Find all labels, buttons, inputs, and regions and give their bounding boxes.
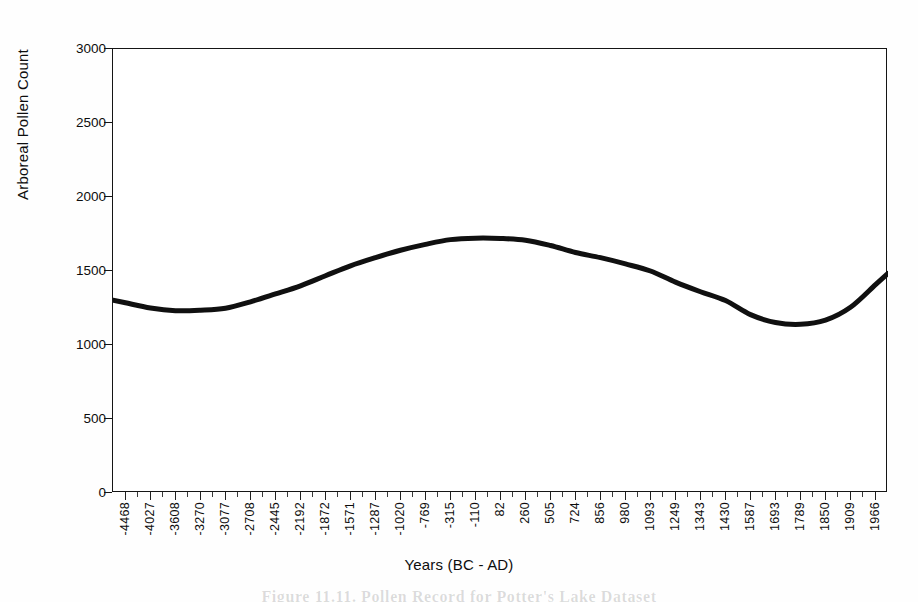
x-tick-mark-minor	[162, 492, 163, 497]
x-tick-label: 1249	[668, 502, 682, 531]
x-tick-mark	[675, 492, 676, 500]
x-tick-mark	[250, 492, 251, 500]
x-tick-mark-minor	[187, 492, 188, 497]
x-tick-label: 724	[568, 502, 582, 524]
pollen-series-line	[113, 49, 888, 493]
x-tick-mark-minor	[337, 492, 338, 497]
x-tick-mark-minor	[562, 492, 563, 497]
x-tick-label: 1789	[793, 502, 807, 531]
figure-caption-remnant: Figure 11.11. Pollen Record for Potter's…	[0, 588, 918, 602]
x-tick-mark-minor	[787, 492, 788, 497]
y-axis-tick-labels: 050010001500200025003000	[56, 40, 106, 500]
y-tick-mark	[104, 48, 112, 49]
x-tick-label: -1287	[368, 502, 382, 535]
x-tick-mark-minor	[287, 492, 288, 497]
x-tick-mark	[875, 492, 876, 500]
x-axis-title: Years (BC - AD)	[0, 556, 918, 573]
x-tick-mark	[225, 492, 226, 500]
x-tick-mark-minor	[362, 492, 363, 497]
y-tick-mark	[104, 492, 112, 493]
x-tick-label: -315	[443, 502, 457, 528]
x-tick-mark-minor	[437, 492, 438, 497]
x-tick-label: 82	[493, 502, 507, 517]
x-tick-label: -4468	[118, 502, 132, 535]
x-tick-mark-minor	[587, 492, 588, 497]
x-tick-label: -769	[418, 502, 432, 528]
x-tick-label: -1571	[343, 502, 357, 535]
x-tick-mark-minor	[687, 492, 688, 497]
x-tick-mark-minor	[637, 492, 638, 497]
y-tick-label: 0	[56, 485, 106, 500]
x-tick-label: 1850	[818, 502, 832, 531]
x-tick-label: -3608	[168, 502, 182, 535]
x-tick-label: -2708	[243, 502, 257, 535]
x-tick-mark-minor	[487, 492, 488, 497]
x-tick-mark	[725, 492, 726, 500]
x-tick-mark	[525, 492, 526, 500]
x-tick-label: 260	[518, 502, 532, 524]
y-tick-label: 1500	[56, 263, 106, 278]
x-tick-label: 505	[543, 502, 557, 524]
y-tick-mark	[104, 196, 112, 197]
x-tick-label: -2192	[293, 502, 307, 535]
x-tick-mark	[750, 492, 751, 500]
x-tick-mark	[575, 492, 576, 500]
x-tick-label: -1872	[318, 502, 332, 535]
x-tick-mark-minor	[812, 492, 813, 497]
x-tick-mark	[400, 492, 401, 500]
x-tick-mark-minor	[387, 492, 388, 497]
x-tick-mark	[125, 492, 126, 500]
x-tick-mark	[700, 492, 701, 500]
x-tick-label: -3270	[193, 502, 207, 535]
x-tick-mark	[300, 492, 301, 500]
x-tick-mark	[150, 492, 151, 500]
x-tick-mark	[800, 492, 801, 500]
x-tick-label: 1343	[693, 502, 707, 531]
x-tick-mark	[350, 492, 351, 500]
x-tick-mark	[325, 492, 326, 500]
x-tick-mark-minor	[512, 492, 513, 497]
x-tick-mark	[825, 492, 826, 500]
x-tick-mark-minor	[837, 492, 838, 497]
x-tick-label: 856	[593, 502, 607, 524]
x-tick-label: 1430	[718, 502, 732, 531]
series-path-arboreal-pollen	[113, 238, 888, 324]
x-tick-mark-minor	[262, 492, 263, 497]
x-tick-mark	[600, 492, 601, 500]
x-tick-mark-minor	[612, 492, 613, 497]
x-tick-mark	[625, 492, 626, 500]
x-axis-tick-labels: -4468-4027-3608-3270-3077-2708-2445-2192…	[112, 502, 888, 550]
x-tick-mark-minor	[537, 492, 538, 497]
x-tick-label: 1693	[768, 502, 782, 531]
x-tick-mark-minor	[212, 492, 213, 497]
x-tick-mark	[775, 492, 776, 500]
x-tick-mark-minor	[237, 492, 238, 497]
x-tick-mark	[850, 492, 851, 500]
x-tick-label: 1966	[868, 502, 882, 531]
y-axis-title: Arboreal Pollen Count	[14, 0, 31, 200]
x-tick-mark	[200, 492, 201, 500]
x-tick-label: -110	[468, 502, 482, 527]
y-tick-label: 500	[56, 411, 106, 426]
x-tick-mark	[375, 492, 376, 500]
y-tick-mark	[104, 418, 112, 419]
x-tick-label: 980	[618, 502, 632, 524]
x-axis-tick-marks	[112, 492, 888, 501]
x-tick-mark-minor	[312, 492, 313, 497]
plot-area	[112, 48, 887, 492]
y-tick-label: 2000	[56, 189, 106, 204]
x-tick-mark	[650, 492, 651, 500]
x-tick-mark-minor	[412, 492, 413, 497]
x-tick-mark-minor	[737, 492, 738, 497]
x-tick-mark-minor	[762, 492, 763, 497]
x-tick-mark-minor	[662, 492, 663, 497]
x-tick-mark	[550, 492, 551, 500]
y-tick-mark	[104, 122, 112, 123]
x-tick-label: 1909	[843, 502, 857, 531]
x-tick-mark	[475, 492, 476, 500]
x-tick-mark-minor	[462, 492, 463, 497]
y-tick-label: 1000	[56, 337, 106, 352]
x-tick-label: 1587	[743, 502, 757, 531]
x-tick-mark-minor	[862, 492, 863, 497]
x-tick-mark	[450, 492, 451, 500]
